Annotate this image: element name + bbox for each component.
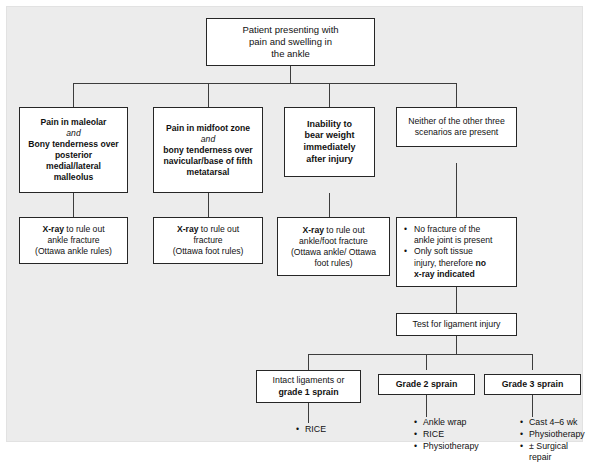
criteria-malleolar-line4: posterior <box>55 150 92 161</box>
node-ligament-test[interactable]: Test for ligament injury <box>396 313 517 336</box>
list-item: • Ankle wrap <box>414 417 479 429</box>
list-item: • Physiotherapy <box>414 441 479 453</box>
connector-drop-grade2 <box>426 354 427 370</box>
node-criteria-midfoot[interactable]: Pain in midfoot zone and bony tenderness… <box>153 107 263 193</box>
connector-bottom-distributor <box>308 354 532 355</box>
connector-grade1-to-treatments <box>308 403 309 423</box>
action-xray-ankle-foot-line1: X-ray to rule out <box>302 225 364 236</box>
node-criteria-malleolar[interactable]: Pain in maleolar and Bony tenderness ove… <box>19 107 128 193</box>
no-fracture-bullet-1: • No fracture of the ankle joint is pres… <box>404 224 510 246</box>
connector-top-distributor <box>73 83 456 84</box>
connector-malleolar-to-xray <box>73 193 74 217</box>
node-root-line2: pain and swelling in <box>249 36 332 48</box>
bullet-glyph-icon: • <box>520 429 529 441</box>
node-root[interactable]: Patient presenting with pain and swellin… <box>206 18 375 66</box>
action-xray-ankle-line2: ankle fracture <box>47 235 99 246</box>
connector-drop-midfoot <box>208 83 209 107</box>
action-xray-ankle-foot-line1-rest: to rule out <box>324 225 365 235</box>
action-xray-foot-line3: (Ottawa foot rules) <box>173 246 244 257</box>
no-fracture-b1-line1: No fracture of the <box>414 224 480 234</box>
bullet-glyph-icon: • <box>414 429 423 441</box>
node-action-xray-ankle-foot[interactable]: X-ray to rule out ankle/foot fracture (O… <box>277 217 390 276</box>
treatments-grade-1: • RICE <box>296 424 326 436</box>
connector-grade3-to-treatments <box>532 395 533 417</box>
criteria-malleolar-line1: Pain in maleolar <box>41 117 107 128</box>
criteria-weightbearing-line2: bear weight <box>304 130 354 142</box>
node-root-line3: the ankle <box>271 48 310 60</box>
treatments-grade-3: • Cast 4–6 wk • Physiotherapy • ± Surgic… <box>520 417 585 464</box>
action-xray-ankle-line3: (Ottawa ankle rules) <box>35 246 112 257</box>
action-xray-ankle-foot-line2: ankle/foot fracture <box>299 236 368 247</box>
criteria-midfoot-line3: bony tenderness over <box>163 145 252 156</box>
no-fracture-b2-prefix: injury, therefore <box>414 258 475 268</box>
node-outcome-grade-2[interactable]: Grade 2 sprain <box>378 374 475 395</box>
node-outcome-grade-3[interactable]: Grade 3 sprain <box>484 374 581 395</box>
action-xray-ankle-line1-rest: to rule out <box>64 224 105 234</box>
outcome-grade3-label: Grade 3 sprain <box>502 379 564 390</box>
connector-test-to-distributor <box>456 336 457 354</box>
treatment-grade3-1: Cast 4–6 wk <box>529 417 577 429</box>
treatment-grade2-3: Physiotherapy <box>423 441 479 453</box>
outcome-grade2-label: Grade 2 sprain <box>396 379 458 390</box>
connector-root-down <box>290 66 291 83</box>
node-outcome-grade-1[interactable]: Intact ligaments or grade 1 sprain <box>256 370 361 403</box>
treatment-grade2-1: Ankle wrap <box>423 417 467 429</box>
diagram-plate: Patient presenting with pain and swellin… <box>6 6 583 442</box>
action-xray-ankle-foot-lead: X-ray <box>302 225 324 235</box>
bullet-glyph-icon: • <box>414 441 423 453</box>
connector-midfoot-to-xray <box>208 193 209 217</box>
action-xray-ankle-lead: X-ray <box>42 224 64 234</box>
list-item: • RICE <box>414 429 479 441</box>
treatments-grade-2: • Ankle wrap • RICE • Physiotherapy <box>414 417 479 452</box>
node-no-fracture[interactable]: • No fracture of the ankle joint is pres… <box>396 217 517 287</box>
list-item: • ± Surgical repair <box>520 441 585 464</box>
node-criteria-none-of-three[interactable]: Neither of the other three scenarios are… <box>396 107 517 147</box>
connector-drop-weightbearing <box>329 83 330 107</box>
connector-drop-grade3 <box>532 354 533 370</box>
criteria-weightbearing-line4: after injury <box>306 154 353 166</box>
criteria-midfoot-line4: navicular/base of fifth <box>164 156 253 167</box>
connector-drop-malleolar <box>73 83 74 107</box>
bullet-glyph-icon: • <box>404 246 414 257</box>
list-item: • RICE <box>296 424 326 436</box>
node-action-xray-ankle[interactable]: X-ray to rule out ankle fracture (Ottawa… <box>19 217 128 264</box>
criteria-midfoot-and: and <box>201 134 215 145</box>
no-fracture-b2-line1: Only soft tissue <box>414 246 473 256</box>
no-fracture-bullet-2: • Only soft tissue injury, therefore no … <box>404 246 510 280</box>
node-criteria-weightbearing[interactable]: Inability to bear weight immediately aft… <box>284 107 375 177</box>
outcome-grade1-line1: Intact ligaments or <box>273 375 345 386</box>
action-xray-ankle-foot-line4: foot rules) <box>314 258 352 269</box>
criteria-weightbearing-line3: immediately <box>303 142 355 154</box>
list-item: • Physiotherapy <box>520 429 585 441</box>
connector-grade2-to-treatments <box>426 395 427 417</box>
treatment-grade2-2: RICE <box>423 429 444 441</box>
criteria-malleolar-line5: medial/lateral <box>46 161 101 172</box>
criteria-weightbearing-line1: Inability to <box>307 119 352 131</box>
criteria-midfoot-line1: Pain in midfoot zone <box>166 123 250 134</box>
no-fracture-b2-bold2: x-ray indicated <box>414 269 475 279</box>
connector-drop-grade1 <box>308 354 309 370</box>
connector-drop-none <box>456 83 457 107</box>
node-action-xray-foot[interactable]: X-ray to rule out fracture (Ottawa foot … <box>153 217 263 264</box>
bullet-glyph-icon: • <box>296 424 305 436</box>
connector-weightbearing-to-xray <box>329 193 330 217</box>
criteria-malleolar-line3: Bony tenderness over <box>28 139 118 150</box>
connector-nofracture-to-test <box>456 287 457 313</box>
action-xray-foot-lead: X-ray <box>177 224 199 234</box>
treatment-grade1-1: RICE <box>305 424 326 436</box>
treatment-grade3-2: Physiotherapy <box>529 429 585 441</box>
action-xray-ankle-line1: X-ray to rule out <box>42 224 104 235</box>
action-xray-foot-line2: fracture <box>193 235 222 246</box>
criteria-none-line2: scenarios are present <box>415 127 499 138</box>
ligament-test-label: Test for ligament injury <box>412 319 500 330</box>
connector-none-to-nofracture <box>456 163 457 217</box>
treatment-grade3-3: ± Surgical repair <box>529 441 585 464</box>
action-xray-foot-line1: X-ray to rule out <box>177 224 239 235</box>
no-fracture-b2-bold1: no <box>475 258 486 268</box>
criteria-midfoot-line5: metatarsal <box>187 167 230 178</box>
outcome-grade1-line2: grade 1 sprain <box>278 387 338 398</box>
action-xray-ankle-foot-line3: (Ottawa ankle/ Ottawa <box>291 247 376 258</box>
action-xray-foot-line1-rest: to rule out <box>198 224 239 234</box>
bullet-glyph-icon: • <box>404 224 414 235</box>
criteria-malleolar-and: and <box>66 128 80 139</box>
